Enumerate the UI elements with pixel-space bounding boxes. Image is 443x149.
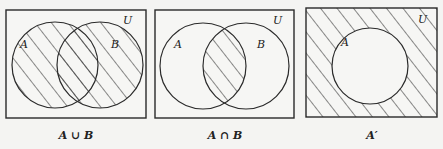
set-a-label: A (173, 38, 182, 51)
intersection-diagram: A B U A ∩ B (155, 10, 294, 142)
set-a-label: A (340, 36, 349, 49)
universe-label: U (273, 14, 283, 27)
union-diagram: A B U A ∪ B (6, 10, 146, 142)
intersection-caption: A ∩ B (207, 129, 243, 142)
universe-label: U (418, 13, 428, 26)
complement-caption: A′ (365, 129, 378, 142)
set-b-label: B (110, 38, 119, 51)
set-b-label: B (256, 38, 265, 51)
union-caption: A ∪ B (58, 129, 94, 142)
complement-diagram: A U A′ (306, 8, 437, 142)
venn-diagrams: A B U A ∪ B A B U A ∩ B A U A′ (0, 0, 443, 149)
universe-label: U (123, 14, 133, 27)
set-a-label: A (19, 38, 28, 51)
